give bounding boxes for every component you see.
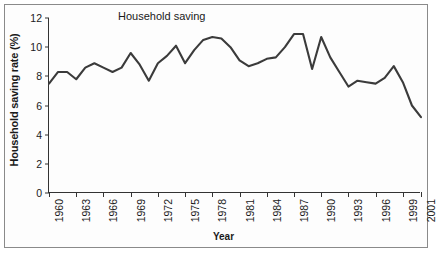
x-tick-label: 1975 [189,199,201,222]
x-tick-mark [421,192,422,197]
x-tick-label: 1966 [107,199,119,222]
y-axis-title-text: Household saving rate (%) [8,33,20,166]
x-tick-label: 1990 [325,199,337,222]
x-axis-title-text: Year [213,231,234,242]
x-tick-label: 1972 [162,199,174,222]
x-tick-label: 1963 [80,199,92,222]
x-tick-label: 1960 [53,199,65,222]
x-tick-label: 1999 [407,199,419,222]
x-tick-label: 1987 [298,199,310,222]
data-series-svg [49,18,421,193]
plot-area: 024681012 196019631966196919721975197819… [48,18,420,193]
x-axis-title: Year [0,231,433,242]
x-tick-label: 1996 [380,199,392,222]
y-axis-title: Household saving rate (%) [2,0,26,200]
x-tick-label: 2001 [425,199,437,222]
x-tick-label: 1984 [271,199,283,222]
x-tick-label: 1969 [135,199,147,222]
x-tick-label: 1978 [216,199,228,222]
x-tick-label: 1993 [352,199,364,222]
x-tick-label: 1981 [244,199,256,222]
household-saving-line [49,34,421,117]
